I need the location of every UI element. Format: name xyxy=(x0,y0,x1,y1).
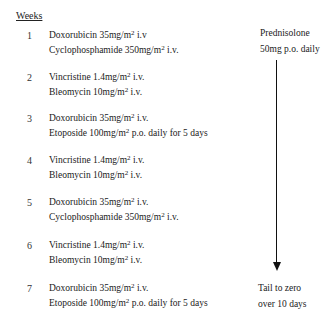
week-number: 4 xyxy=(27,155,32,166)
drug-line: Cyclophosphamide 350mg/m2 i.v. xyxy=(49,212,179,222)
taper-label: Tail to zero xyxy=(258,283,301,293)
arrow-down-icon xyxy=(273,262,281,271)
drug-line: Doxorubicin 35mg/m2 i.v. xyxy=(49,113,148,123)
week-number: 3 xyxy=(27,113,32,124)
taper-arrow-line xyxy=(276,60,277,264)
week-number: 2 xyxy=(27,72,32,83)
drug-line: Doxorubicin 35mg/m2 i.v. xyxy=(49,197,148,207)
drug-line: Cyclophosphamide 350mg/m2 i.v. xyxy=(49,45,179,55)
week-number: 5 xyxy=(27,197,32,208)
drug-line: Vincristine 1.4mg/m2 i.v. xyxy=(49,240,144,250)
drug-line: Bleomycin 10mg/m2 i.v. xyxy=(49,87,142,97)
week-number: 1 xyxy=(27,30,32,41)
week-number: 7 xyxy=(27,283,32,294)
drug-line: Doxorubicin 35mg/m2 i.v xyxy=(49,30,147,40)
drug-line: Bleomycin 10mg/m2 i.v. xyxy=(49,170,142,180)
week-number: 6 xyxy=(27,240,32,251)
drug-line: Bleomycin 10mg/m2 i.v. xyxy=(49,255,142,265)
prednisolone-label: Prednisolone xyxy=(260,28,310,38)
drug-line: Vincristine 1.4mg/m2 i.v. xyxy=(49,155,144,165)
taper-duration: over 10 days xyxy=(258,299,307,309)
drug-line: Etoposide 100mg/m2 p.o. daily for 5 days xyxy=(49,128,208,138)
drug-line: Doxorubicin 35mg/m2 i.v. xyxy=(49,283,148,293)
drug-line: Vincristine 1.4mg/m2 i.v. xyxy=(49,72,144,82)
weeks-header: Weeks xyxy=(16,10,42,21)
drug-line: Etoposide 100mg/m2 p.o. daily for 5 days xyxy=(49,298,208,308)
prednisolone-dose: 50mg p.o. daily xyxy=(260,44,320,54)
